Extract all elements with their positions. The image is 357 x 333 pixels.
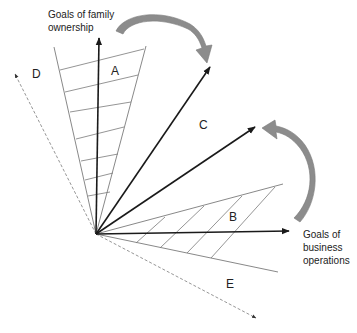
business-operations-axis-arrow — [96, 231, 289, 234]
region-c-label: C — [199, 118, 208, 132]
ray-c-upper-arrow — [96, 67, 210, 234]
wedge-a-left-edge — [54, 47, 96, 234]
curved-arrow-top-icon — [116, 15, 212, 63]
business-operations-label: Goals of business operations — [303, 229, 350, 266]
region-b-label: B — [229, 210, 237, 224]
goals-diagram: Goals of family ownership Goals of busin… — [0, 0, 357, 333]
wedge-b — [96, 184, 283, 272]
wedge-a-hatching — [60, 49, 144, 196]
region-d-label: D — [32, 67, 41, 81]
family-ownership-label: Goals of family ownership — [48, 9, 117, 33]
region-e-label: E — [226, 277, 234, 291]
region-a-label: A — [111, 64, 119, 78]
wedge-b-hatching — [136, 187, 275, 258]
ray-d-dashed-arrow — [15, 74, 96, 234]
family-ownership-axis-arrow — [96, 38, 99, 234]
wedge-a — [54, 46, 146, 234]
ray-e-dashed-arrow — [96, 234, 256, 318]
curved-arrow-right-icon — [262, 120, 315, 222]
